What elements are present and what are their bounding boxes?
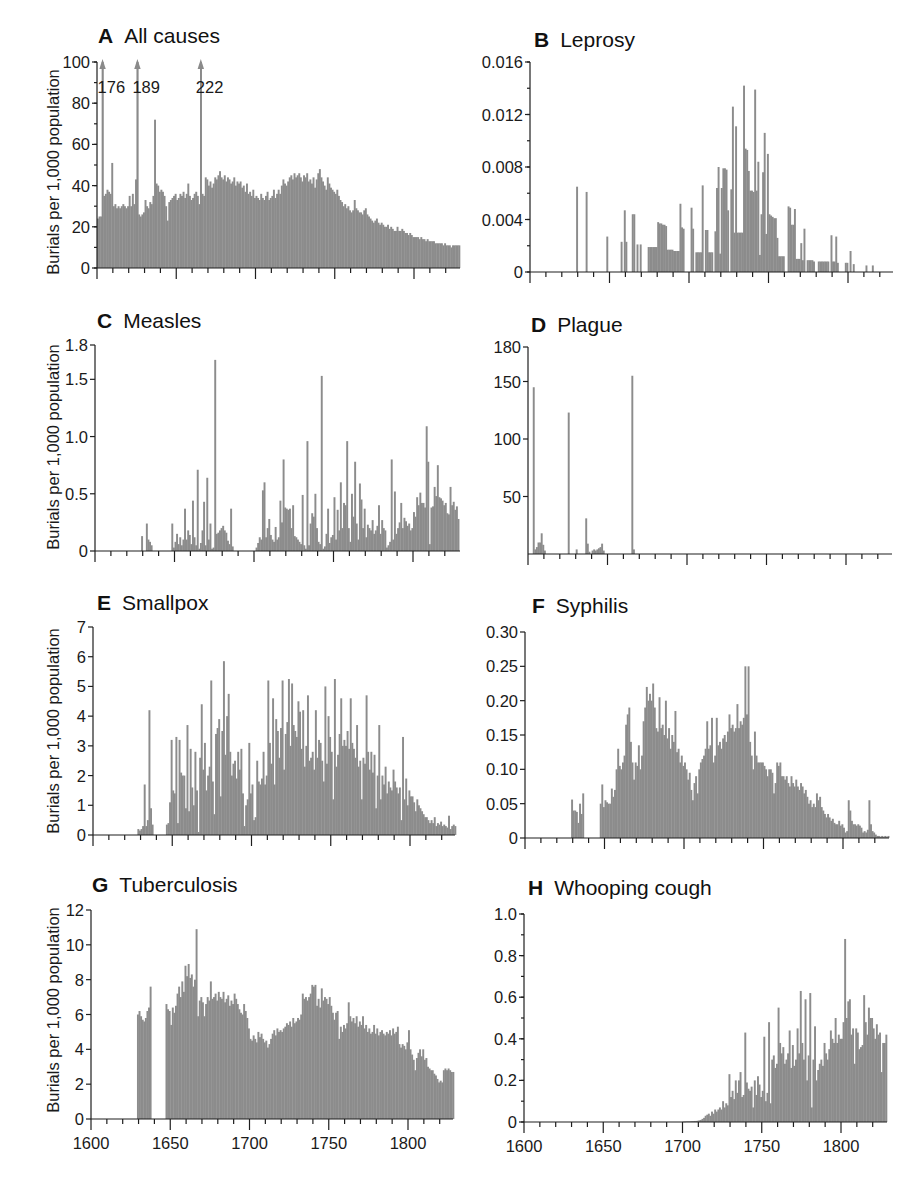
- x-tick-label: 1600: [506, 1137, 543, 1155]
- y-tick-label: 2: [77, 767, 86, 785]
- panel-g-plot: 02468101216001650170017501800: [66, 901, 455, 1152]
- bars: [533, 376, 635, 554]
- y-tick-label: 0.15: [486, 726, 518, 744]
- y-tick-label: 0.016: [482, 53, 523, 71]
- bar: [809, 993, 811, 1122]
- arrow-up-icon: [99, 59, 105, 69]
- bar: [853, 264, 855, 272]
- bar: [458, 519, 460, 551]
- bars: [141, 360, 459, 551]
- y-tick-label: 12: [66, 901, 84, 919]
- bar: [692, 229, 694, 272]
- y-tick-label: 6: [75, 1006, 84, 1024]
- bar: [837, 263, 839, 272]
- y-tick-label: 80: [72, 94, 90, 112]
- panel-a-plot: 176189222020406080100: [62, 53, 460, 279]
- bar: [209, 524, 211, 551]
- y-tick-label: 0.05: [486, 795, 518, 813]
- bar: [702, 185, 704, 272]
- annotation-label: 189: [132, 78, 160, 96]
- bar: [633, 549, 635, 554]
- x-tick-label: 1750: [310, 1134, 347, 1152]
- bar: [640, 244, 642, 272]
- bar: [865, 265, 867, 272]
- bar: [582, 793, 584, 838]
- bar: [637, 244, 639, 272]
- y-tick-label: 6: [77, 648, 86, 666]
- bar: [803, 229, 805, 272]
- bar: [586, 192, 588, 272]
- bar: [606, 237, 608, 272]
- x-tick-label: 1800: [823, 1137, 860, 1155]
- bar: [850, 251, 852, 272]
- bar: [633, 214, 635, 272]
- y-tick-label: 0.6: [494, 988, 517, 1006]
- y-tick-label: 1: [77, 796, 86, 814]
- y-tick-label: 4: [75, 1040, 84, 1058]
- y-tick-label: 100: [493, 430, 521, 448]
- bar: [813, 262, 815, 273]
- y-tick-label: 0.30: [486, 623, 518, 641]
- y-tick-label: 1.0: [494, 905, 517, 923]
- bar: [302, 495, 304, 551]
- bar: [196, 790, 198, 835]
- panel-h-plot: 00.20.40.60.81.016001650170017501800: [494, 905, 887, 1155]
- bars: [683, 939, 888, 1122]
- y-tick-label: 40: [72, 177, 90, 195]
- bar: [454, 826, 456, 835]
- y-tick-label: 0.012: [482, 106, 523, 124]
- bar: [197, 470, 199, 551]
- y-tick-label: 0: [79, 542, 88, 560]
- x-tick-label: 1650: [152, 1134, 189, 1152]
- bar: [625, 242, 627, 272]
- arrow-up-icon: [134, 59, 140, 69]
- panel-c-plot: 00.51.01.51.8: [65, 336, 460, 562]
- y-tick-label: 7: [77, 618, 86, 636]
- bar: [232, 546, 234, 551]
- y-tick-label: 180: [493, 338, 521, 356]
- bar: [452, 1072, 454, 1119]
- bar: [458, 245, 460, 268]
- y-tick-label: 0.4: [494, 1030, 517, 1048]
- bar: [727, 210, 729, 272]
- bar: [321, 376, 323, 551]
- panel-d-plot: 50100150180: [493, 338, 892, 565]
- bar: [175, 737, 177, 835]
- y-tick-label: 100: [62, 53, 90, 71]
- bar: [391, 459, 393, 551]
- y-tick-label: 0.004: [482, 211, 523, 229]
- bar: [872, 265, 874, 272]
- bar: [621, 242, 623, 272]
- y-tick-label: 0: [509, 829, 518, 847]
- figure-plots: 176189222020406080100 00.0040.0080.0120.…: [0, 0, 914, 1186]
- bar: [150, 987, 152, 1119]
- y-tick-label: 2: [75, 1075, 84, 1093]
- y-tick-label: 1.0: [65, 428, 88, 446]
- y-tick-label: 0.10: [486, 760, 518, 778]
- y-tick-label: 0: [77, 826, 86, 844]
- annotation-label: 176: [98, 78, 126, 96]
- bars: [576, 86, 874, 272]
- bars: [571, 666, 889, 838]
- bar: [783, 256, 785, 272]
- y-tick-label: 0: [81, 259, 90, 277]
- bar: [171, 524, 173, 551]
- x-tick-label: 1600: [73, 1134, 110, 1152]
- y-tick-label: 0: [75, 1110, 84, 1128]
- y-tick-label: 8: [75, 971, 84, 989]
- axes: [523, 347, 892, 565]
- bar: [151, 545, 153, 551]
- y-tick-label: 10: [66, 936, 84, 954]
- y-tick-label: 50: [503, 488, 521, 506]
- x-tick-label: 1650: [585, 1137, 622, 1155]
- annotation-label: 222: [196, 78, 224, 96]
- arrow-up-icon: [198, 59, 204, 69]
- bar: [141, 536, 143, 551]
- y-tick-label: 0.008: [482, 158, 523, 176]
- y-tick-label: 3: [77, 737, 86, 755]
- y-tick-label: 20: [72, 218, 90, 236]
- y-tick-label: 0.5: [65, 485, 88, 503]
- y-tick-label: 150: [493, 373, 521, 391]
- bar: [568, 413, 570, 554]
- axes: [525, 62, 893, 283]
